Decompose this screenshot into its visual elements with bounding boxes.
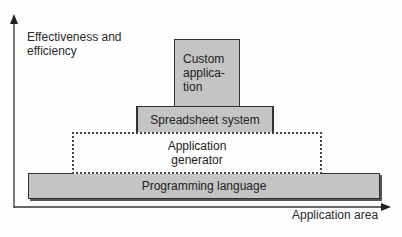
x-axis-arrow-icon [381, 203, 391, 211]
layer-custom-application-label-line3: tion [183, 80, 202, 94]
y-axis-label-line1: Effectiveness and [27, 30, 122, 44]
layer-custom-application-label-line1: Custom [183, 52, 224, 66]
layer-programming-language-label: Programming language [142, 179, 267, 193]
layer-spreadsheet-system: Spreadsheet system [136, 106, 274, 132]
y-axis-label: Effectiveness and efficiency [27, 30, 122, 58]
layer-application-generator-label-line2: generator [171, 153, 222, 167]
layer-custom-application: Custom applica- tion [174, 39, 240, 107]
layer-application-generator: Application generator [72, 132, 322, 174]
layer-application-generator-label-line1: Application [168, 139, 227, 153]
y-axis-label-line2: efficiency [27, 44, 122, 58]
layer-custom-application-label-line2: applica- [183, 66, 225, 80]
layer-programming-language: Programming language [28, 173, 380, 199]
layer-spreadsheet-system-label: Spreadsheet system [150, 113, 259, 127]
y-axis-arrow-icon [10, 14, 18, 24]
x-axis-label: Application area [292, 208, 378, 222]
